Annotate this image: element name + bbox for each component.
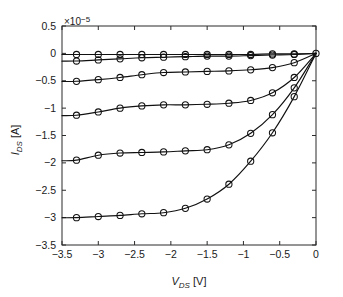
plot-frame (62, 26, 316, 245)
y-axis-subscript: DS (15, 141, 24, 153)
x-tick-label: −0.5 (269, 248, 290, 260)
y-tick-label: −2 (44, 156, 56, 168)
data-curves (62, 53, 316, 217)
y-axis-unit: [A] (9, 125, 21, 142)
chart-figure: −3.5−3−2.5−2−1.5−1−0.50 0.50−0.5−1−1.5−2… (0, 0, 343, 297)
axis-tickmarks (62, 26, 316, 245)
x-tick-label: −3 (92, 248, 104, 260)
curve-line-curve-5 (62, 53, 316, 160)
x-tick-label: −2.5 (124, 248, 145, 260)
x-tick-label: −1.5 (197, 248, 218, 260)
y-tick-label: −1.5 (35, 129, 56, 141)
x-tick-label: −1 (237, 248, 249, 260)
x-tick-label: −2 (165, 248, 177, 260)
data-point-markers (73, 50, 319, 220)
x-axis-unit: [V] (190, 275, 207, 287)
axes-frame (62, 26, 316, 245)
x-axis-subscript: DS (179, 281, 191, 290)
x-axis-tick-labels: −3.5−3−2.5−2−1.5−1−0.50 (52, 248, 319, 260)
y-tick-label: −2.5 (35, 184, 56, 196)
y-tick-label: 0 (50, 47, 56, 59)
iv-characteristics-chart: −3.5−3−2.5−2−1.5−1−0.50 0.50−0.5−1−1.5−2… (0, 0, 343, 297)
y-axis-tick-labels: 0.50−0.5−1−1.5−2−2.5−3−3.5 (35, 20, 56, 251)
x-axis-title: VDS [V] (172, 275, 207, 290)
y-axis-title: IDS [A] (9, 125, 24, 156)
exponent-base: ×10 (64, 16, 81, 27)
y-tick-label: −3 (44, 211, 56, 223)
y-tick-label: −1 (44, 102, 56, 114)
y-tick-label: −0.5 (35, 74, 56, 86)
y-axis-exponent-label: ×10−5 (64, 15, 91, 28)
x-tick-label: 0 (313, 248, 319, 260)
y-tick-label: −3.5 (35, 239, 56, 251)
exponent-power: −5 (81, 15, 91, 24)
curve-line-curve-6 (62, 53, 316, 217)
y-tick-label: 0.5 (41, 20, 56, 32)
